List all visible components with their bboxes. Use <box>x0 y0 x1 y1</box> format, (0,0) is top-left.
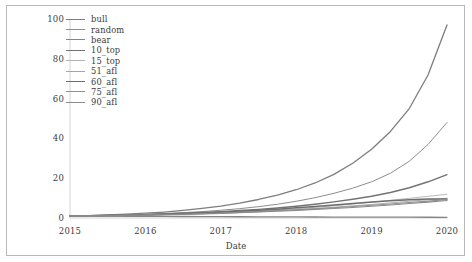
series-line-random <box>70 122 447 216</box>
legend-swatch-bull <box>66 19 85 20</box>
legend-swatch-random <box>66 29 85 30</box>
legend-item-60_afl: 60_afl <box>66 76 124 86</box>
x-axis-label: Date <box>0 241 472 251</box>
legend-item-10_top: 10_top <box>66 45 124 55</box>
legend-item-51_afl: 51_afl <box>66 66 124 76</box>
legend-label-60_afl: 60_afl <box>91 77 117 87</box>
x-tick-2017: 2017 <box>207 226 235 236</box>
y-tick-40: 40 <box>26 133 64 143</box>
legend-label-75_afl: 75_afl <box>91 87 117 97</box>
y-tick-20: 20 <box>26 173 64 183</box>
legend-swatch-60_afl <box>66 81 85 82</box>
y-tick-80: 80 <box>26 54 64 64</box>
figure: 020406080100 201520162017201820192020 Da… <box>0 0 472 262</box>
legend-swatch-51_afl <box>66 71 85 72</box>
legend-label-51_afl: 51_afl <box>91 66 117 76</box>
legend-label-random: random <box>91 25 124 35</box>
x-tick-2016: 2016 <box>131 226 159 236</box>
legend-swatch-15_top <box>66 60 85 61</box>
y-tick-100: 100 <box>26 14 64 24</box>
x-tick-2019: 2019 <box>358 226 386 236</box>
legend-label-bull: bull <box>91 14 108 24</box>
x-tick-2015: 2015 <box>56 226 84 236</box>
legend-label-90_afl: 90_afl <box>91 97 117 107</box>
legend-item-90_afl: 90_afl <box>66 97 124 107</box>
series-line-bear <box>70 216 447 217</box>
legend-swatch-75_afl <box>66 91 85 92</box>
legend-item-random: random <box>66 24 124 34</box>
legend-swatch-bear <box>66 39 85 40</box>
legend: bullrandombear10_top15_top51_afl60_afl75… <box>66 14 124 108</box>
legend-swatch-10_top <box>66 50 85 51</box>
series-line-bull <box>70 25 447 216</box>
x-tick-2020: 2020 <box>433 226 461 236</box>
series-line-60_afl <box>70 199 447 216</box>
y-tick-60: 60 <box>26 94 64 104</box>
series-line-75_afl <box>70 199 447 216</box>
legend-label-bear: bear <box>91 35 111 45</box>
legend-label-10_top: 10_top <box>91 45 120 55</box>
legend-item-75_afl: 75_afl <box>66 87 124 97</box>
legend-swatch-90_afl <box>66 102 85 103</box>
x-tick-2018: 2018 <box>282 226 310 236</box>
legend-item-15_top: 15_top <box>66 56 124 66</box>
y-tick-0: 0 <box>26 213 64 223</box>
legend-item-bull: bull <box>66 14 124 24</box>
legend-item-bear: bear <box>66 35 124 45</box>
legend-label-15_top: 15_top <box>91 56 120 66</box>
